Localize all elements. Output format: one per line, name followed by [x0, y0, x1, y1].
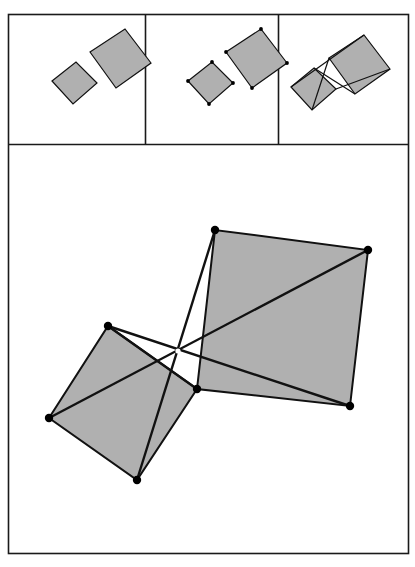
vertex-small-top [104, 322, 112, 330]
vertex-shared [193, 385, 201, 393]
panel2-vertex-dot-7 [285, 61, 289, 65]
panel2-vertex-dot-3 [231, 81, 235, 85]
geometry-figure [0, 0, 415, 567]
panel2-vertex-dot-1 [186, 79, 190, 83]
panel2-vertex-dot-4 [207, 102, 211, 106]
vertex-small-left [45, 414, 53, 422]
figure-container [0, 0, 415, 567]
panel2-vertex-dot-5 [224, 50, 228, 54]
panel2-vertex-dot-8 [250, 86, 254, 90]
panel2-vertex-dot-6 [259, 27, 263, 31]
vertex-large-top [211, 226, 219, 234]
vertex-large-bottomright [346, 402, 354, 410]
diagonals-crossing [175, 348, 180, 353]
large-square [197, 230, 368, 406]
panel2-vertex-dot-2 [210, 60, 214, 64]
vertex-large-topright [364, 246, 372, 254]
vertex-small-bottom [133, 476, 141, 484]
